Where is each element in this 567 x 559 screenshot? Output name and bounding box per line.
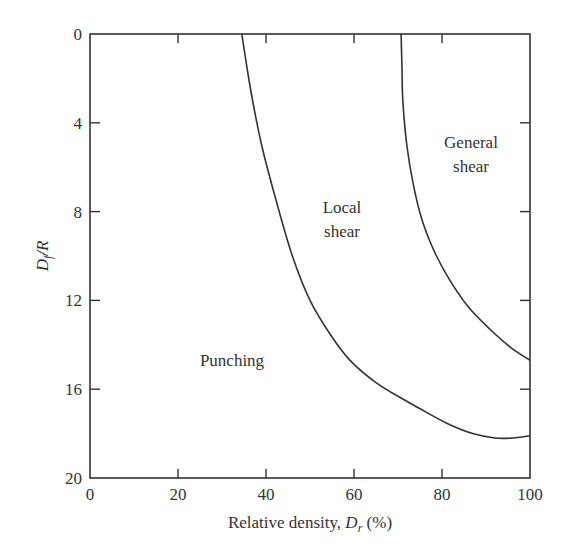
axis-ticks bbox=[90, 34, 530, 478]
y-tick-labels: 048121620 bbox=[65, 25, 83, 488]
x-tick-label: 40 bbox=[258, 485, 275, 504]
region-label-local-shear-line1: Local bbox=[323, 198, 362, 217]
y-tick-label: 12 bbox=[65, 291, 82, 310]
y-tick-label: 20 bbox=[65, 469, 82, 488]
chart-svg: 020406080100 048121620 Punching Local sh… bbox=[0, 0, 567, 559]
local-general-boundary-curve bbox=[401, 34, 530, 360]
x-tick-label: 80 bbox=[434, 485, 451, 504]
y-tick-label: 4 bbox=[74, 114, 83, 133]
region-label-punching: Punching bbox=[200, 351, 265, 370]
x-tick-label: 0 bbox=[86, 485, 95, 504]
y-axis-label: Df/R bbox=[33, 240, 55, 272]
x-tick-labels: 020406080100 bbox=[86, 485, 543, 504]
y-tick-label: 8 bbox=[74, 203, 83, 222]
y-tick-label: 16 bbox=[65, 380, 82, 399]
x-tick-label: 100 bbox=[517, 485, 543, 504]
punching-local-boundary-curve bbox=[242, 34, 530, 438]
region-label-local-shear-line2: shear bbox=[324, 222, 360, 241]
x-tick-label: 60 bbox=[346, 485, 363, 504]
boundary-curves bbox=[242, 34, 530, 438]
region-label-general-shear-line1: General bbox=[444, 133, 498, 152]
x-axis-label: Relative density, Dr (%) bbox=[228, 513, 392, 535]
x-tick-label: 20 bbox=[170, 485, 187, 504]
region-label-general-shear-line2: shear bbox=[453, 157, 489, 176]
y-tick-label: 0 bbox=[74, 25, 83, 44]
plot-frame bbox=[90, 34, 530, 478]
